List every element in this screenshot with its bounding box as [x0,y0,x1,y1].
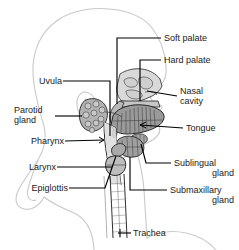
leader-pharynx [65,140,104,141]
anatomy-figure: Soft palate Hard palate Nasal cavity Ton… [0,0,239,250]
label-hard-palate: Hard palate [164,55,211,65]
nasal-cavity-shape [117,69,162,102]
leader-lines [55,38,183,237]
label-tongue: Tongue [186,123,216,133]
label-larynx: Larynx [0,162,56,172]
label-parotid-gland-line2: gland [14,115,36,125]
label-submaxillary-gland-line2: gland [154,195,234,205]
label-parotid-gland-line1: Parotid [14,105,43,115]
label-pharynx: Pharynx [0,136,64,146]
label-soft-palate: Soft palate [164,33,207,43]
label-uvula: Uvula [0,76,62,86]
label-nasal-cavity-line1: Nasal [180,86,203,96]
label-epiglottis: Epiglottis [0,183,68,193]
tongue-shape [111,105,164,134]
leader-sublingual-gland [141,144,171,163]
label-sublingual-gland-line2: gland [154,168,234,178]
label-sublingual-gland-line1: Sublingual [174,158,216,168]
label-trachea: Trachea [133,228,166,238]
label-submaxillary-gland-line1: Submaxillary [170,185,222,195]
label-nasal-cavity-line2: cavity [180,96,203,106]
